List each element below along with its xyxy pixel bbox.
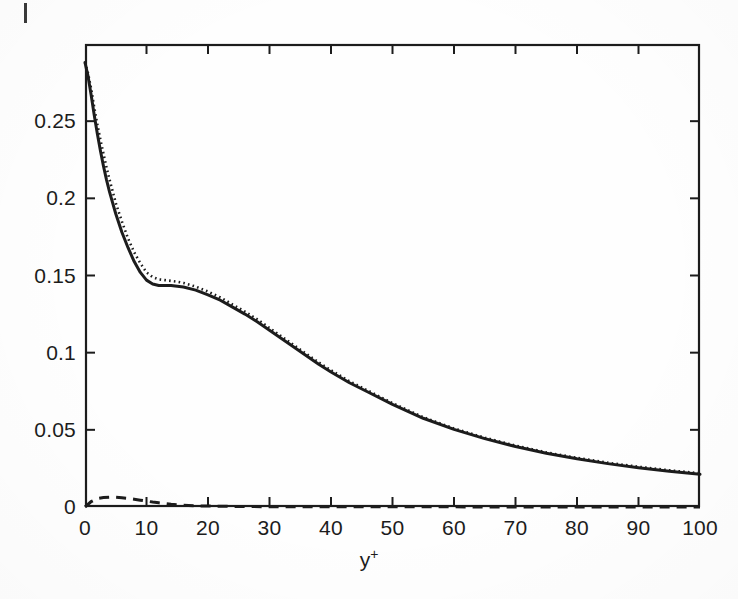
- axes-frame: [86, 45, 699, 506]
- y-tick-label: 0.15: [34, 265, 76, 286]
- x-axis-title-superscript: +: [370, 546, 378, 562]
- plot-canvas: [85, 44, 700, 507]
- plot-area: [85, 44, 700, 507]
- x-axis-title-base: y: [360, 548, 371, 571]
- series-layer: [85, 63, 700, 507]
- series-solid-curve: [85, 63, 700, 475]
- tick-marks: [86, 45, 699, 506]
- y-tick-label: 0.2: [46, 187, 76, 208]
- series-dotted-curve: [85, 63, 700, 474]
- scan-edge-mark-icon: [24, 3, 27, 23]
- y-tick-label: 0: [64, 496, 76, 517]
- x-tick-label: 100: [660, 517, 738, 538]
- x-axis-title: y+: [0, 548, 738, 572]
- figure-root: 00.050.10.150.20.25 01020304050607080901…: [0, 0, 738, 599]
- y-tick-label: 0.25: [34, 110, 76, 131]
- y-tick-label: 0.1: [46, 342, 76, 363]
- y-tick-label: 0.05: [34, 419, 76, 440]
